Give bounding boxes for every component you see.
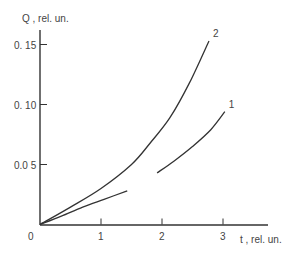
- y-tick-label: 0. 15: [14, 40, 37, 51]
- series-1-label: 1: [229, 99, 235, 110]
- axes: [40, 30, 268, 225]
- y-axis-label: Q , rel. un.: [22, 13, 69, 24]
- x-tick-label: 3: [220, 231, 226, 242]
- x-axis-label: t , rel. un.: [240, 234, 282, 245]
- series-2-label: 2: [213, 28, 219, 39]
- y-tick-label: 0. 10: [14, 100, 37, 111]
- series-1-line: [40, 191, 127, 225]
- chart: Q , rel. un. t , rel. un. 0 1230.0 50. 1…: [0, 0, 292, 253]
- series-2-line: [40, 41, 209, 225]
- x-tick-label: 1: [98, 231, 104, 242]
- y-tick-label: 0.0 5: [14, 160, 37, 171]
- x-tick-label: 2: [159, 231, 165, 242]
- origin-label: 0: [28, 231, 34, 242]
